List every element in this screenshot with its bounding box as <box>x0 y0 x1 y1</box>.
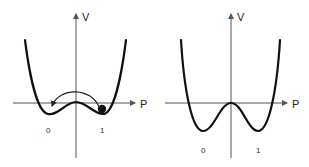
right-panel: V P 0 1 <box>165 11 299 158</box>
right-min-label-1: 1 <box>256 146 261 155</box>
left-panel: V P 0 1 <box>13 11 147 158</box>
particle-ball <box>98 105 106 113</box>
right-p-label: P <box>292 98 299 110</box>
left-v-label: V <box>82 11 90 23</box>
right-v-label: V <box>237 11 245 23</box>
double-well-diagram: V P 0 1 V P 0 1 <box>0 0 309 167</box>
left-min-label-0: 0 <box>46 126 51 135</box>
right-min-label-0: 0 <box>201 146 206 155</box>
left-p-label: P <box>140 98 147 110</box>
left-min-label-1: 1 <box>100 126 105 135</box>
